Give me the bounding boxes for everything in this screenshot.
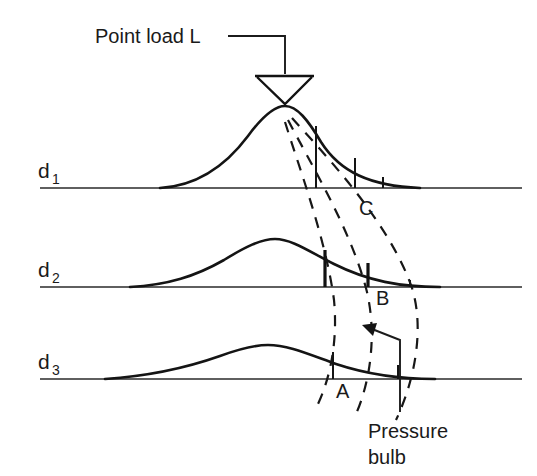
depth-label-d3-subscript: 3 bbox=[52, 362, 60, 378]
depth-level-d1: d 1 bbox=[38, 106, 522, 188]
pressure-bulb-diagram: d 1 d 2 d 3 bbox=[0, 0, 537, 476]
depth-label-d3: d bbox=[38, 350, 50, 373]
depth-level-d3: d 3 bbox=[38, 345, 522, 379]
depth-label-d1-subscript: 1 bbox=[52, 171, 60, 187]
figure-container: d 1 d 2 d 3 bbox=[0, 0, 537, 476]
stress-curve-d3 bbox=[105, 345, 435, 379]
depth-label-d2: d bbox=[38, 258, 50, 281]
load-symbol-triangle bbox=[257, 77, 312, 104]
depth-level-d2: d 2 bbox=[38, 239, 522, 287]
pressure-bulb-callout bbox=[362, 323, 400, 412]
depth-label-d1: d bbox=[38, 159, 50, 182]
point-load-leader bbox=[228, 36, 285, 74]
pressure-bulb-label-line2: bulb bbox=[368, 446, 406, 468]
pressure-bulb-label-line1: Pressure bbox=[368, 420, 448, 442]
point-load-label: Point load L bbox=[95, 25, 201, 47]
pressure-bulb-leader-elbow bbox=[372, 329, 400, 362]
stress-curve-d1 bbox=[160, 106, 420, 188]
point-label-b: B bbox=[376, 287, 389, 309]
point-load-symbol bbox=[255, 76, 314, 104]
point-label-c: C bbox=[359, 197, 373, 219]
depth-label-d2-subscript: 2 bbox=[52, 270, 60, 286]
pressure-bulb-arrowhead bbox=[362, 323, 377, 336]
point-label-a: A bbox=[336, 380, 350, 402]
point-load-leader-line bbox=[228, 36, 285, 74]
